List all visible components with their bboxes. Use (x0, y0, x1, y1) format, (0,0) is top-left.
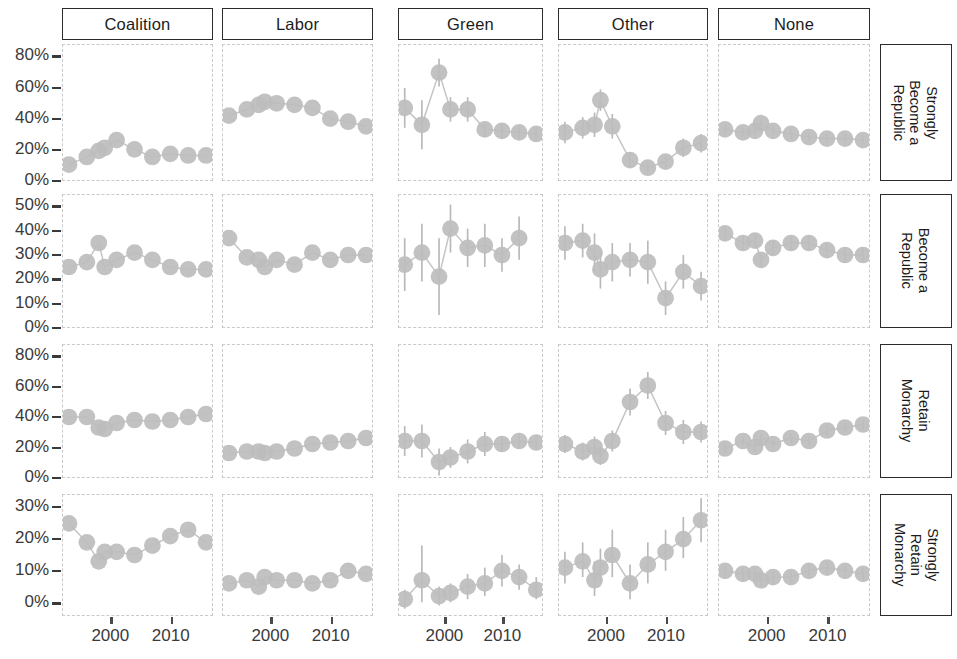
panel-green-r1 (398, 44, 543, 181)
data-point (622, 394, 639, 411)
row-strip-strongly-retain-monarchy: StronglyRetainMonarchy (880, 494, 952, 616)
data-point (180, 261, 197, 278)
data-point (765, 123, 782, 140)
data-point (78, 254, 95, 271)
panel-green-r3 (398, 344, 543, 478)
data-point (198, 147, 212, 164)
faceted-chart-figure: CoalitionLaborGreenOtherNoneStronglyBeco… (0, 0, 957, 659)
x-axis-label-2010: 2010 (301, 626, 361, 646)
data-point (322, 434, 339, 451)
data-point (399, 256, 413, 273)
data-point (657, 153, 674, 170)
y-axis-tick (52, 477, 61, 479)
data-point (304, 575, 321, 592)
data-point (559, 559, 573, 576)
series-plot (559, 495, 707, 615)
panel-coalition-r3 (62, 344, 213, 478)
data-point (693, 135, 707, 152)
data-point (747, 232, 764, 249)
data-point (604, 433, 621, 450)
data-point (126, 547, 143, 564)
data-point (657, 543, 674, 560)
y-axis-label-r4-20: 20% (0, 528, 49, 548)
y-axis-tick (52, 149, 61, 151)
data-point (476, 436, 493, 453)
data-point (574, 553, 591, 570)
data-point (63, 259, 77, 276)
column-strip-label: Labor (276, 15, 319, 34)
series-plot (63, 195, 212, 327)
data-point (108, 543, 125, 560)
data-point (604, 254, 621, 271)
data-point (442, 101, 459, 118)
y-axis-tick (52, 327, 61, 329)
y-axis-tick (52, 254, 61, 256)
column-strip-labor: Labor (222, 8, 373, 40)
data-point (442, 220, 459, 237)
y-axis-label-r3-20: 20% (0, 437, 49, 457)
y-axis-label-r1-80: 80% (0, 45, 49, 65)
series-plot (399, 195, 542, 327)
y-axis-tick (52, 602, 61, 604)
data-point (559, 235, 573, 252)
data-point (783, 430, 800, 447)
data-point (162, 259, 179, 276)
data-point (639, 159, 656, 176)
row-strip-label: StronglyRetainMonarchy (891, 523, 941, 587)
panel-coalition-r2 (62, 194, 213, 328)
panel-other-r4 (558, 494, 708, 616)
panel-other-r3 (558, 344, 708, 478)
data-point (592, 92, 609, 109)
data-point (223, 445, 237, 462)
y-axis-label-r1-0: 0% (0, 170, 49, 190)
data-point (431, 64, 448, 81)
y-axis-label-r4-30: 30% (0, 496, 49, 516)
data-point (494, 436, 511, 453)
data-point (511, 230, 528, 247)
y-axis-label-r3-80: 80% (0, 345, 49, 365)
data-point (431, 268, 448, 285)
data-point (358, 430, 372, 447)
data-point (719, 121, 733, 138)
y-axis-tick (52, 355, 61, 357)
data-point (162, 528, 179, 545)
y-axis-label-r1-60: 60% (0, 77, 49, 97)
data-point (675, 263, 692, 280)
data-point (559, 436, 573, 453)
data-point (442, 449, 459, 466)
data-point (144, 149, 161, 166)
data-point (268, 251, 285, 268)
column-strip-coalition: Coalition (62, 8, 213, 40)
data-point (144, 251, 161, 268)
data-point (476, 237, 493, 254)
data-point (855, 132, 869, 149)
x-axis-label-2000: 2000 (80, 626, 140, 646)
y-axis-label-r3-60: 60% (0, 376, 49, 396)
data-point (819, 242, 836, 259)
series-plot (559, 345, 707, 477)
y-axis-tick (52, 87, 61, 89)
series-plot (399, 45, 542, 180)
data-point (494, 562, 511, 579)
panel-other-r1 (558, 44, 708, 181)
x-axis-label-2000: 2000 (414, 626, 474, 646)
data-point (622, 251, 639, 268)
data-point (494, 123, 511, 140)
data-point (675, 531, 692, 548)
x-axis-label-2000: 2000 (737, 626, 797, 646)
data-point (180, 409, 197, 426)
series-plot (223, 345, 372, 477)
row-strip-strongly-become-a-republic: StronglyBecome aRepublic (880, 44, 952, 181)
x-axis-tick (331, 617, 333, 624)
data-point (675, 139, 692, 156)
data-point (144, 537, 161, 554)
panel-labor-r4 (222, 494, 373, 616)
data-point (837, 130, 854, 147)
series-plot (719, 45, 869, 180)
y-axis-label-r2-10: 10% (0, 293, 49, 313)
panel-green-r2 (398, 194, 543, 328)
data-point (340, 562, 357, 579)
y-axis-tick (52, 205, 61, 207)
series-plot (719, 195, 869, 327)
y-axis-label-r4-0: 0% (0, 592, 49, 612)
